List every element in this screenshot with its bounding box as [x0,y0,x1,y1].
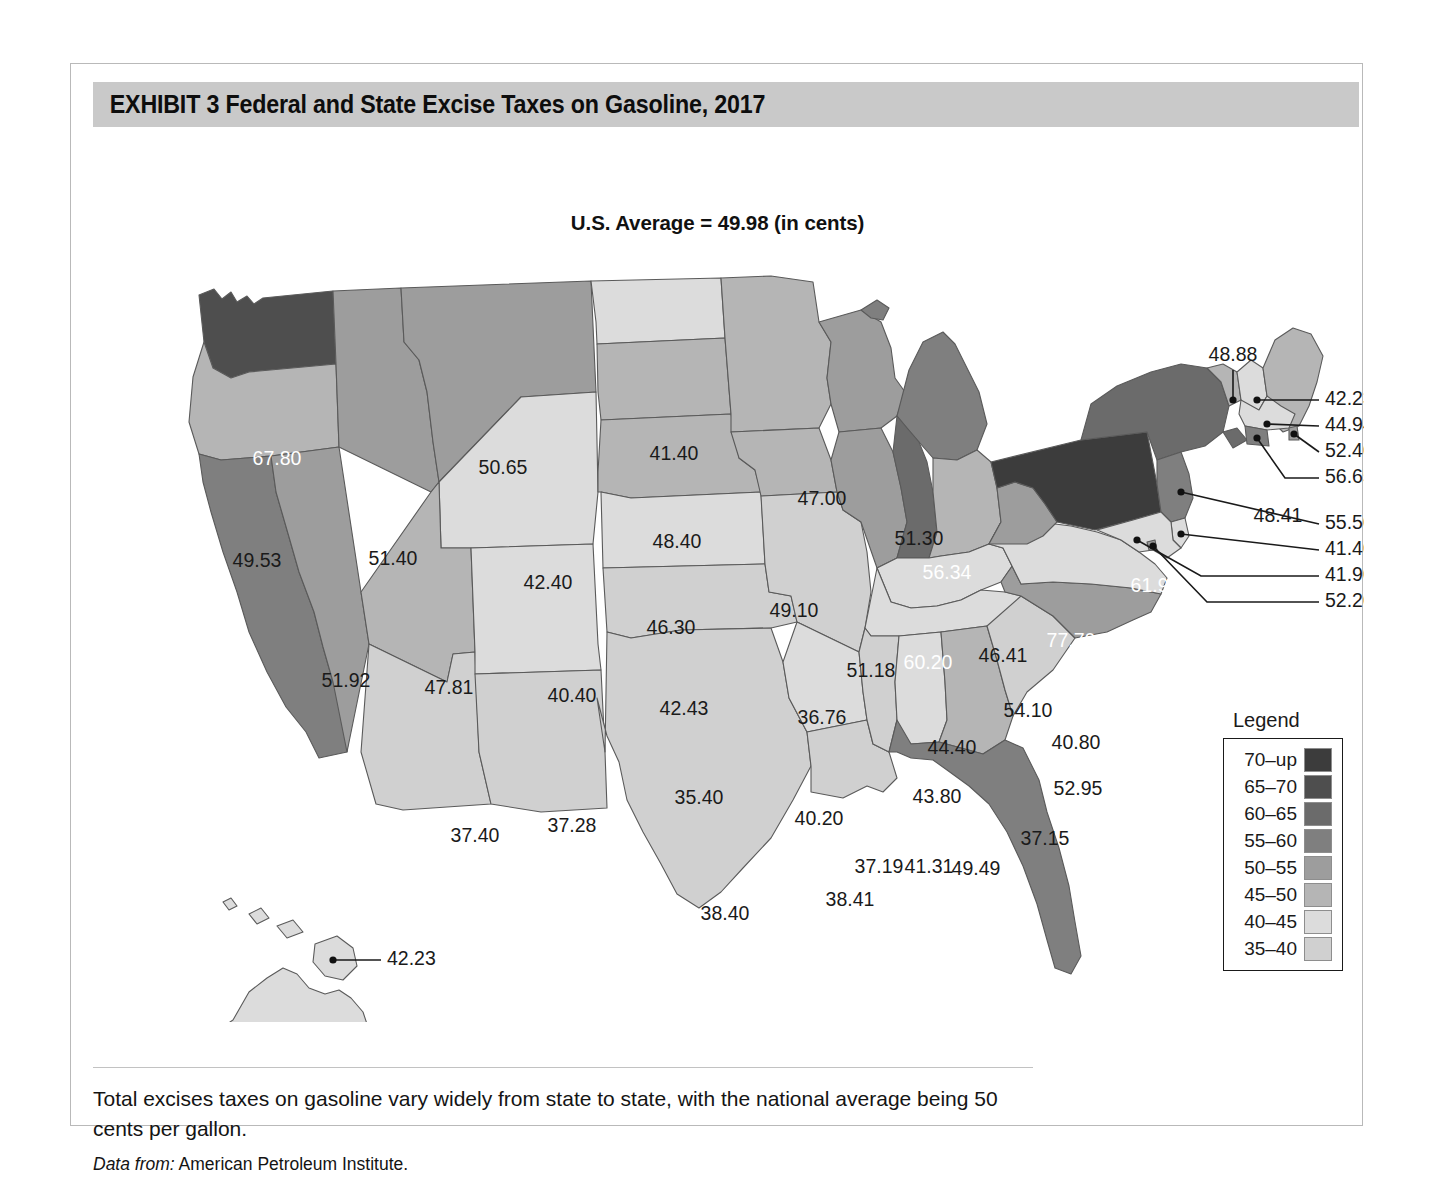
state-value-mt: 50.65 [479,456,528,478]
source-prefix: Data from: [93,1154,175,1174]
legend-item: 35–40 [1234,937,1332,961]
state-value-ga: 49.49 [952,857,1001,879]
callout-value-hi: 42.23 [387,947,436,969]
callout-value-nh: 42.23 [1325,387,1364,409]
state-value-nv: 51.92 [322,669,371,691]
legend-item-label: 50–55 [1244,857,1297,879]
state-value-ks: 42.43 [660,697,709,719]
state-value-sd: 48.40 [653,530,702,552]
callout-dot-nh [1253,396,1260,403]
state-value-nm: 37.28 [548,814,597,836]
state-value-pa: 77.70 [1047,629,1096,651]
state-value-ar: 40.20 [795,807,844,829]
legend-item-label: 35–40 [1244,938,1297,960]
callout-dot-nj [1177,488,1184,495]
state-wa[interactable] [199,289,336,378]
legend-item: 40–45 [1234,910,1332,934]
state-value-al: 41.31 [905,855,954,877]
state-value-az: 37.40 [451,824,500,846]
state-tx[interactable] [597,628,811,908]
state-value-oh: 46.41 [979,644,1028,666]
state-mn[interactable] [721,276,831,432]
state-value-il: 51.18 [847,659,896,681]
legend-swatch [1304,775,1332,799]
state-value-ne: 46.30 [647,616,696,638]
callout-dot-dc [1149,542,1156,549]
state-value-ok: 35.40 [675,786,724,808]
legend-item: 70–up [1234,748,1332,772]
legend-item-label: 70–up [1244,749,1297,771]
state-wi[interactable] [819,310,905,432]
state-value-sc: 37.15 [1021,827,1070,849]
state-value-ca: 58.98 [247,734,296,756]
callout-leader-de [1181,534,1319,550]
state-value-tx: 38.40 [701,902,750,924]
state-nd[interactable] [591,278,725,344]
state-value-fl: 55.19 [1007,1013,1056,1022]
state-value-la: 38.41 [826,888,875,910]
callout-value-ri: 52.40 [1325,439,1364,461]
callout-dot-ri [1290,430,1297,437]
state-value-mi: 56.34 [923,561,972,583]
legend-swatch [1304,802,1332,826]
us-choropleth-map: 67.8049.5358.9851.9251.4050.6542.4047.81… [71,192,1364,1022]
state-nj[interactable] [1157,452,1193,522]
legend-item-label: 55–60 [1244,830,1297,852]
state-value-tn: 43.80 [913,785,962,807]
exhibit-caption: Total excises taxes on gasoline vary wid… [93,1084,1023,1144]
legend-swatch [1304,748,1332,772]
state-value-wa: 67.80 [253,447,302,469]
state-al[interactable] [895,632,947,744]
callout-dot-hi [329,956,336,963]
callout-dot-de [1177,530,1184,537]
legend-swatch [1304,883,1332,907]
state-value-wi: 51.30 [895,527,944,549]
state-value-ia: 49.10 [770,599,819,621]
state-value-nd: 41.40 [650,442,699,464]
state-value-mo: 36.76 [798,706,847,728]
callout-leader-ri [1294,434,1319,452]
state-value-ms: 37.19 [855,855,904,877]
callout-dot-ma [1263,420,1270,427]
state-value-mn: 47.00 [798,487,847,509]
legend-item: 45–50 [1234,883,1332,907]
legend-item: 65–70 [1234,775,1332,799]
legend-item-label: 45–50 [1244,884,1297,906]
legend-swatch [1304,829,1332,853]
legend-item-label: 60–65 [1244,803,1297,825]
callout-value-nj: 55.50 [1325,511,1364,533]
callout-value-ct: 56.65 [1325,465,1364,487]
map-svg: 67.8049.5358.9851.9251.4050.6542.4047.81… [71,192,1364,1022]
legend-item-label: 65–70 [1244,776,1297,798]
exhibit-panel: EXHIBIT 3 Federal and State Excise Taxes… [70,63,1363,1126]
exhibit-title-bar: EXHIBIT 3 Federal and State Excise Taxes… [93,82,1359,127]
legend-item: 50–55 [1234,856,1332,880]
page-title: EXHIBIT 3 Federal and State Excise Taxes… [93,90,765,119]
state-sd[interactable] [597,338,731,420]
legend-item: 60–65 [1234,802,1332,826]
legend-item-label: 40–45 [1244,911,1297,933]
legend-title: Legend [1233,709,1343,732]
callout-value-dc: 52.20 [1325,589,1364,611]
state-value-ky: 44.40 [928,736,977,758]
legend-box: 70–up65–7060–6555–6050–5545–5040–4535–40 [1223,738,1343,971]
legend-item: 55–60 [1234,829,1332,853]
state-ak[interactable] [213,968,423,1022]
callout-dot-md [1133,536,1140,543]
callout-value-md: 41.90 [1325,563,1364,585]
callout-value-de: 41.40 [1325,537,1364,559]
source-text: American Petroleum Institute. [179,1154,409,1174]
legend-swatch [1304,910,1332,934]
caption-divider [93,1067,1033,1068]
legend-swatch [1304,856,1332,880]
state-hi[interactable] [223,898,357,980]
callout-dot-ct [1253,434,1260,441]
legend-swatch [1304,937,1332,961]
state-value-co: 40.40 [548,684,597,706]
exhibit-source: Data from: American Petroleum Institute. [93,1154,408,1175]
state-value-id: 51.40 [369,547,418,569]
state-value-nc: 52.95 [1054,777,1103,799]
state-co[interactable] [471,544,601,674]
state-value-ny: 61.90 [1131,574,1180,596]
state-value-wy: 42.40 [524,571,573,593]
